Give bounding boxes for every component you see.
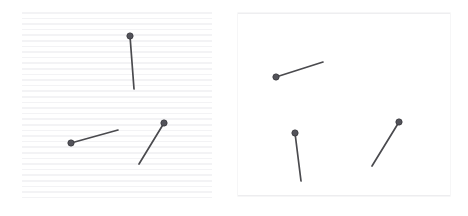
- lined-panel: [22, 12, 212, 201]
- plain-panel: [238, 13, 450, 196]
- panel-bottom-edge: [238, 195, 450, 196]
- image-canvas: [0, 0, 468, 216]
- panel-top-edge: [238, 13, 450, 14]
- ruled-stripes: [22, 12, 212, 201]
